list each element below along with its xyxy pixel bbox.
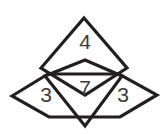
label-right-value: 3 <box>110 84 136 105</box>
diagram-canvas: math 4 7 3 3 <box>0 0 167 134</box>
label-center-value: 7 <box>72 77 98 98</box>
rhombus-diagram-svg <box>0 0 167 134</box>
label-left-value: 3 <box>33 84 59 105</box>
label-top-value: 4 <box>72 31 98 52</box>
